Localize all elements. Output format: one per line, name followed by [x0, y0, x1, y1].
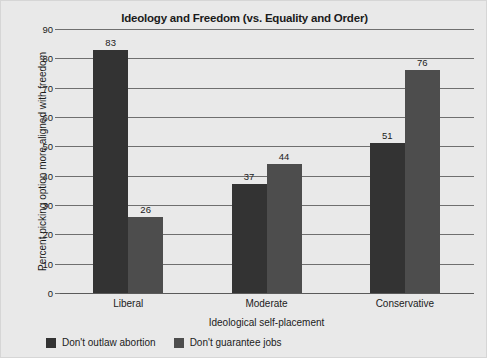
bar: 37 [232, 184, 267, 293]
legend-item[interactable]: Don't outlaw abortion [46, 337, 156, 348]
bar: 51 [370, 143, 405, 293]
x-axis-title: Ideological self-placement [59, 317, 474, 328]
gridline [59, 29, 474, 30]
bar-value-label: 37 [244, 171, 255, 182]
bar-value-label: 83 [105, 37, 116, 48]
bar: 83 [93, 50, 128, 293]
bar-value-label: 44 [279, 151, 290, 162]
chart-screenshot: Ideology and Freedom (vs. Equality and O… [0, 0, 487, 358]
y-axis-tick-label: 90 [42, 24, 53, 35]
bar: 44 [267, 164, 302, 293]
y-axis-tick [55, 58, 60, 59]
chart-legend: Don't outlaw abortionDon't guarantee job… [46, 337, 282, 348]
legend-label: Don't guarantee jobs [190, 337, 282, 348]
y-axis-tick-label: 80 [42, 53, 53, 64]
y-axis-tick [55, 234, 60, 235]
chart-title: Ideology and Freedom (vs. Equality and O… [1, 12, 487, 24]
y-axis-tick [55, 264, 60, 265]
y-axis-tick [55, 176, 60, 177]
y-axis-tick-label: 30 [42, 200, 53, 211]
y-axis-tick [55, 29, 60, 30]
y-axis-tick-label: 50 [42, 141, 53, 152]
x-axis-baseline [59, 293, 474, 294]
y-axis-tick-label: 70 [42, 82, 53, 93]
bar-value-label: 76 [417, 57, 428, 68]
y-axis-tick-label: 10 [42, 258, 53, 269]
y-axis-tick-label: 40 [42, 170, 53, 181]
y-axis-tick-label: 60 [42, 112, 53, 123]
x-axis-category-label: Liberal [113, 298, 143, 309]
y-axis-tick [55, 293, 60, 294]
bar-value-label: 26 [140, 204, 151, 215]
y-axis-tick-label: 20 [42, 229, 53, 240]
y-axis-tick-label: 0 [48, 288, 53, 299]
bar-value-label: 51 [382, 130, 393, 141]
x-axis-category-label: Conservative [376, 298, 434, 309]
legend-label: Don't outlaw abortion [62, 337, 156, 348]
y-axis-tick [55, 146, 60, 147]
x-axis-category-label: Moderate [245, 298, 287, 309]
bar: 76 [405, 70, 440, 293]
y-axis-tick [55, 88, 60, 89]
legend-item[interactable]: Don't guarantee jobs [174, 337, 282, 348]
y-axis-tick [55, 117, 60, 118]
y-axis-tick [55, 205, 60, 206]
plot-area: 0102030405060708090832637445176 [59, 29, 474, 293]
bar: 26 [128, 217, 163, 293]
legend-swatch-icon [174, 338, 184, 348]
legend-swatch-icon [46, 338, 56, 348]
y-axis-title: Percent picking option more aligned with… [37, 37, 48, 287]
